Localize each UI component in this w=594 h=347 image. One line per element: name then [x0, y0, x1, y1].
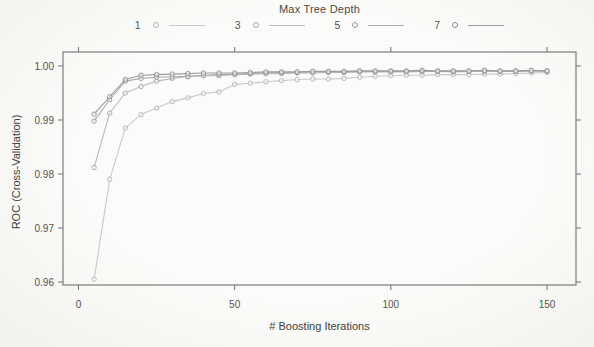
- x-axis-tick-label: 0: [76, 299, 82, 310]
- data-point-depth-7: [311, 69, 315, 73]
- data-point-depth-7: [264, 70, 268, 74]
- data-point-depth-7: [498, 69, 502, 73]
- y-axis-tick-label: 0.97: [35, 223, 55, 234]
- data-point-depth-7: [404, 69, 408, 73]
- x-axis-ticks: 050100150: [76, 47, 556, 310]
- roc-vs-iterations-chart: 0501001500.960.970.980.991.00: [0, 0, 594, 347]
- data-point-depth-7: [342, 69, 346, 73]
- data-point-depth-1: [186, 96, 190, 100]
- series-depth-1: [92, 70, 549, 281]
- data-point-depth-7: [420, 68, 424, 72]
- data-point-depth-1: [279, 78, 283, 82]
- data-point-depth-1: [295, 77, 299, 81]
- data-point-depth-7: [186, 71, 190, 75]
- data-point-depth-7: [123, 77, 127, 81]
- data-point-depth-7: [529, 68, 533, 72]
- series-line-depth-3: [94, 71, 547, 168]
- data-point-depth-3: [92, 165, 96, 169]
- data-point-depth-7: [279, 70, 283, 74]
- data-point-depth-7: [436, 69, 440, 73]
- data-point-depth-1: [264, 80, 268, 84]
- data-point-depth-1: [139, 112, 143, 116]
- data-point-depth-7: [326, 69, 330, 73]
- data-point-depth-7: [295, 70, 299, 74]
- series-line-depth-5: [94, 71, 547, 121]
- data-point-depth-1: [357, 75, 361, 79]
- data-point-depth-3: [139, 84, 143, 88]
- x-axis-title: # Boosting Iterations: [63, 320, 576, 332]
- y-axis-tick-label: 0.96: [35, 277, 55, 288]
- data-point-depth-7: [514, 69, 518, 73]
- data-point-depth-1: [342, 76, 346, 80]
- data-point-depth-7: [201, 71, 205, 75]
- data-point-depth-7: [451, 69, 455, 73]
- data-point-depth-1: [123, 126, 127, 130]
- series-depth-5: [92, 69, 549, 124]
- data-point-depth-7: [154, 72, 158, 76]
- data-point-depth-1: [233, 82, 237, 86]
- data-point-depth-7: [139, 73, 143, 77]
- data-point-depth-7: [170, 72, 174, 76]
- data-point-depth-1: [311, 77, 315, 81]
- y-axis-tick-label: 1.00: [35, 61, 55, 72]
- series-depth-7: [92, 68, 549, 116]
- data-point-depth-1: [248, 81, 252, 85]
- data-point-depth-7: [389, 69, 393, 73]
- data-point-depth-7: [373, 69, 377, 73]
- data-point-depth-1: [92, 277, 96, 281]
- data-point-depth-7: [217, 71, 221, 75]
- data-point-depth-1: [201, 91, 205, 95]
- data-point-depth-5: [92, 119, 96, 123]
- y-axis-title: ROC (Cross-Validation): [10, 92, 22, 252]
- x-axis-tick-label: 50: [229, 299, 241, 310]
- y-axis-tick-label: 0.98: [35, 169, 55, 180]
- y-axis-ticks: 0.960.970.980.991.00: [35, 61, 581, 288]
- data-point-depth-7: [482, 68, 486, 72]
- data-point-depth-7: [92, 112, 96, 116]
- data-point-depth-7: [357, 69, 361, 73]
- data-point-depth-7: [545, 69, 549, 73]
- data-point-depth-1: [108, 177, 112, 181]
- data-point-depth-7: [248, 70, 252, 74]
- y-axis-tick-label: 0.99: [35, 115, 55, 126]
- series-depth-3: [92, 69, 549, 170]
- data-point-depth-7: [233, 71, 237, 75]
- data-point-depth-7: [108, 95, 112, 99]
- data-point-depth-3: [123, 91, 127, 95]
- series-line-depth-1: [94, 73, 547, 280]
- data-point-depth-1: [373, 74, 377, 78]
- x-axis-tick-label: 150: [539, 299, 556, 310]
- data-point-depth-1: [170, 99, 174, 103]
- data-point-depth-1: [154, 106, 158, 110]
- x-axis-tick-label: 100: [382, 299, 399, 310]
- data-point-depth-1: [326, 77, 330, 81]
- data-point-depth-7: [467, 69, 471, 73]
- data-point-depth-3: [108, 111, 112, 115]
- data-point-depth-1: [217, 90, 221, 94]
